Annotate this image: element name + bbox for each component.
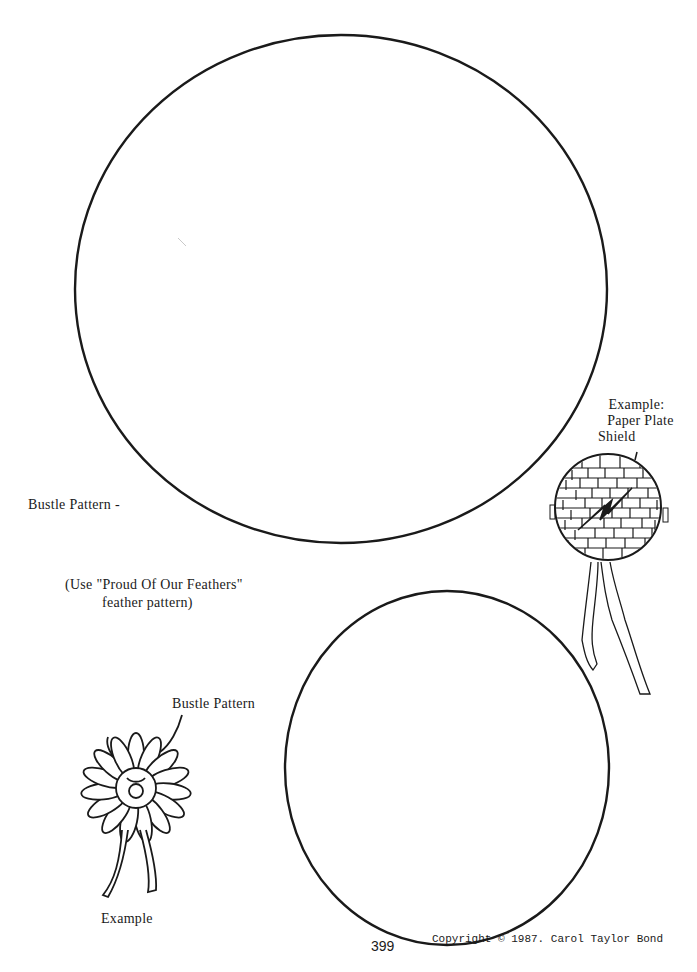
pattern-drawing-layer [0, 0, 697, 972]
shield-streamers-icon [582, 562, 650, 694]
bustle-pattern-small-label: Bustle Pattern [172, 695, 255, 712]
shield-example-label-line1: Example: [584, 396, 689, 413]
use-feather-note-line2: feather pattern) [102, 594, 193, 611]
paper-plate-shield-icon [550, 452, 668, 560]
large-bustle-pattern-circle [75, 35, 607, 543]
bustle-example-icon [80, 715, 191, 897]
copyright-notice: Copyright © 1987. Carol Taylor Bond [432, 933, 663, 945]
shield-example-label-line2: Paper Plate [584, 412, 697, 429]
page-number: 399 [371, 938, 394, 954]
use-feather-note-line1: (Use "Proud Of Our Feathers" [65, 576, 243, 593]
bustle-pattern-large-label: Bustle Pattern - [28, 496, 120, 513]
bustle-example-label: Example [101, 910, 153, 927]
shield-example-label-line3: Shield [598, 428, 636, 445]
small-bustle-pattern-circle [285, 591, 609, 945]
